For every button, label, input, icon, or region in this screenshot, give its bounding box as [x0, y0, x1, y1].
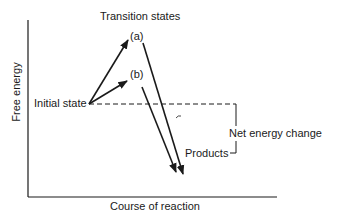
tick-mark: [176, 116, 181, 118]
products-label: Products: [185, 148, 228, 159]
arrow-to-transition-b: [89, 81, 127, 104]
arrow-to-transition-a: [89, 40, 128, 104]
y-axis-label: Free energy: [10, 62, 22, 122]
transition-states-label: Transition states: [100, 11, 180, 22]
initial-state-label: Initial state: [34, 98, 87, 109]
energy-diagram-canvas: [0, 0, 341, 219]
path-a-label: (a): [130, 31, 143, 42]
arrow-a-to-products: [143, 43, 183, 174]
net-energy-change-label: Net energy change: [229, 128, 322, 139]
x-axis-label: Course of reaction: [110, 201, 200, 212]
path-b-label: (b): [130, 69, 143, 80]
arrow-b-to-products: [142, 87, 176, 172]
